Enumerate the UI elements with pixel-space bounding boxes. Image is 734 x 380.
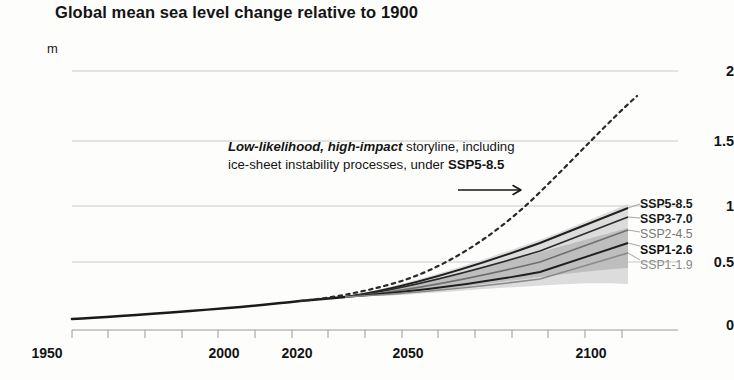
annotation-arrow-icon <box>458 186 521 195</box>
sea-level-chart: Global mean sea level change relative to… <box>0 0 734 380</box>
annotation-bold-text: SSP5-8.5 <box>448 157 504 172</box>
annotation-low-likelihood-storyline: Low-likelihood, high-impact storyline, i… <box>228 138 528 173</box>
legend-item-ssp2-4-5[interactable]: SSP2-4.5 <box>640 227 693 241</box>
annotation-italic-text: Low-likelihood, high-impact <box>228 139 402 154</box>
x-minor-ticks <box>72 330 622 338</box>
legend-leader-lines <box>628 204 640 260</box>
legend-item-ssp3-7-0[interactable]: SSP3-7.0 <box>640 212 693 226</box>
legend-item-ssp1-2-6[interactable]: SSP1-2.6 <box>640 243 693 257</box>
legend-item-ssp1-1-9[interactable]: SSP1-1.9 <box>640 258 693 272</box>
plot-area <box>0 0 734 380</box>
legend-item-ssp5-8-5[interactable]: SSP5-8.5 <box>640 197 693 211</box>
